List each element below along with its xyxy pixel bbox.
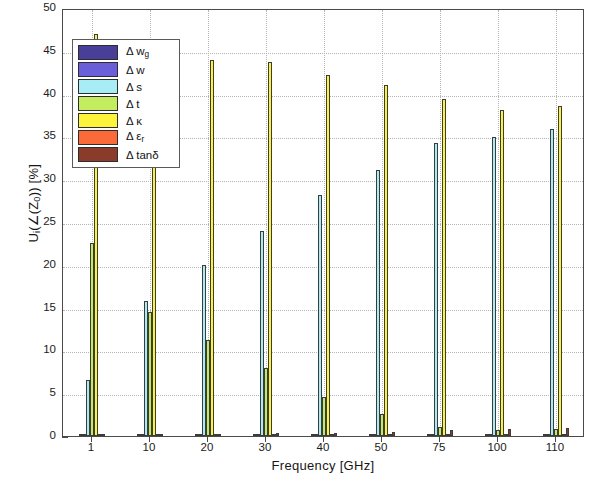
x-tick-mark [207,437,208,442]
legend-swatch [78,62,118,77]
legend-swatch [78,79,118,94]
legend-label-main: Δ w [126,64,145,76]
y-tick-label: 50 [0,1,56,13]
legend-swatch [78,130,118,145]
x-tick-label: 40 [293,441,353,453]
legend-label-main: Δ s [126,81,142,93]
chart-figure: Ui(∠(Z0)) [%] 05101520253035404550 11020… [0,0,597,481]
x-tick-label: 1 [61,441,121,453]
y-tick-label: 20 [0,258,56,270]
bar-group [311,10,338,436]
legend-swatch [78,147,118,162]
legend-label-subscript: g [145,51,150,60]
y-tick-label: 30 [0,172,56,184]
bar [384,85,388,436]
x-tick-label: 10 [119,441,179,453]
bar [376,170,380,436]
x-tick-mark [439,437,440,442]
y-tick-label: 15 [0,301,56,313]
legend-label: Δ s [126,81,142,93]
bar-group [369,10,396,436]
legend-item: Δ tanδ [78,146,174,163]
bar [508,429,512,436]
y-axis-label: Ui(∠(Z0)) [%] [26,73,43,333]
bar [392,432,396,436]
bar-group [253,10,280,436]
legend-label: Δ κ [126,115,142,127]
legend-label: Δ tanδ [126,149,159,161]
x-tick-mark [265,437,266,442]
x-tick-mark [555,437,556,442]
legend-label-main: Δ t [126,98,139,110]
y-tick-label: 40 [0,87,56,99]
legend-item: Δ wg [78,44,174,61]
legend-label-main: Δ tanδ [126,149,159,161]
legend-item: Δ εr [78,129,174,146]
bar [160,434,164,436]
legend-label-main: Δ κ [126,115,142,127]
bar [566,428,570,436]
bar [550,129,554,436]
bar-group [427,10,454,436]
x-axis-label: Frequency [GHz] [62,458,584,473]
legend-item: Δ κ [78,112,174,129]
bar [268,62,272,436]
bar [102,434,106,436]
legend-label: Δ t [126,98,139,110]
legend-label: Δ wg [126,45,149,59]
bar [334,433,338,436]
bar-group [195,10,222,436]
legend-label: Δ w [126,64,145,76]
bar [442,99,446,436]
y-tick-label: 25 [0,215,56,227]
bar-group [485,10,512,436]
x-tick-label: 20 [177,441,237,453]
x-tick-mark [91,437,92,442]
x-tick-mark [497,437,498,442]
y-axis-label-sub-i: i [32,231,42,233]
x-tick-label: 75 [409,441,469,453]
legend-swatch [78,96,118,111]
bar [326,75,330,436]
y-tick-label: 0 [0,429,56,441]
legend-swatch [78,45,118,60]
y-axis-label-main: U [26,233,41,243]
bar [434,143,438,436]
legend-label-main: Δ ε [126,130,141,142]
x-tick-label: 30 [235,441,295,453]
bar [500,110,504,436]
chart-legend: Δ wgΔ wΔ sΔ tΔ κΔ εrΔ tanδ [72,39,180,168]
legend-label-main: Δ w [126,45,145,57]
x-tick-mark [149,437,150,442]
x-tick-label: 50 [351,441,411,453]
y-tick-label: 35 [0,129,56,141]
legend-label: Δ εr [126,130,144,144]
x-tick-mark [381,437,382,442]
bar [218,434,222,436]
y-tick-label: 45 [0,44,56,56]
y-tick-label: 5 [0,386,56,398]
bar [492,137,496,436]
legend-label-subscript: r [141,136,144,145]
legend-swatch [78,113,118,128]
bar-group [543,10,570,436]
legend-item: Δ s [78,78,174,95]
x-tick-mark [323,437,324,442]
x-tick-label: 110 [525,441,585,453]
y-tick-label: 10 [0,343,56,355]
legend-item: Δ w [78,61,174,78]
x-tick-label: 100 [467,441,527,453]
bar [276,433,280,436]
bar [210,60,214,436]
bar [450,430,454,436]
y-tick-mark [62,437,68,438]
bar [558,106,562,436]
legend-item: Δ t [78,95,174,112]
y-axis-label-sub-zero: 0 [32,196,42,201]
